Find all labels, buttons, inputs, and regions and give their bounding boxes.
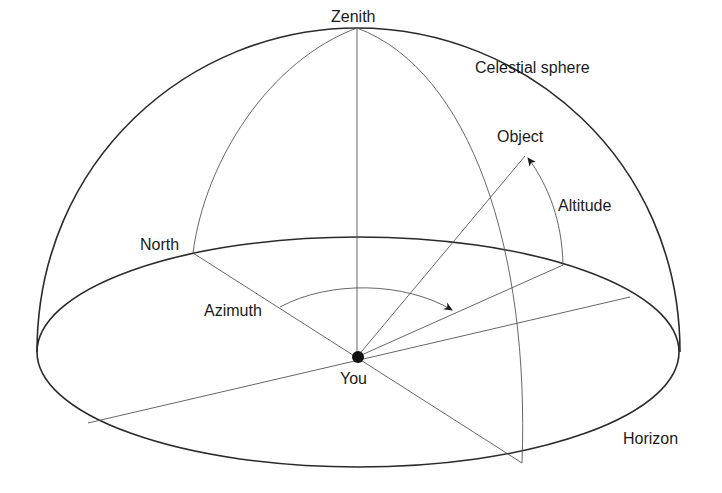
label-azimuth: Azimuth xyxy=(204,302,262,319)
label-north: North xyxy=(140,236,179,253)
north-meridian xyxy=(193,28,357,253)
observer-dot xyxy=(352,351,364,363)
azimuth-arc xyxy=(280,288,452,310)
label-altitude: Altitude xyxy=(558,197,611,214)
line-to-projection xyxy=(357,265,563,357)
label-you: You xyxy=(340,370,367,387)
celestial-sphere-dome xyxy=(37,28,680,352)
label-horizon: Horizon xyxy=(623,430,678,447)
label-object: Object xyxy=(497,128,544,145)
celestial-sphere-diagram: Zenith Celestial sphere Object Altitude … xyxy=(0,0,722,493)
label-zenith: Zenith xyxy=(331,8,375,25)
label-celestial-sphere: Celestial sphere xyxy=(475,59,590,76)
object-meridian xyxy=(357,28,523,463)
